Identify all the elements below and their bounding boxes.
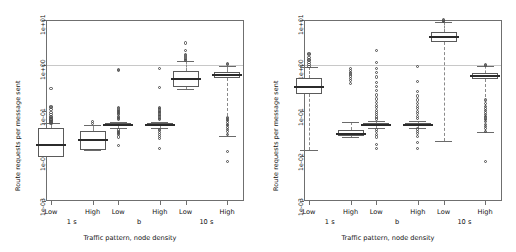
x-category-label: Low <box>166 208 206 216</box>
outlier-point <box>484 63 487 66</box>
outlier-point <box>184 41 187 44</box>
whisker-cap-upper <box>409 121 426 122</box>
whisker-cap-upper <box>342 122 359 123</box>
x-tick <box>227 201 228 205</box>
outlier-point <box>49 105 52 108</box>
outlier-point <box>375 67 378 70</box>
whisker-lower <box>309 94 310 150</box>
y-tick-label: 1e-01 <box>297 108 304 126</box>
outlier-point <box>484 98 487 101</box>
median-line <box>336 133 366 135</box>
outlier-point <box>226 116 229 119</box>
x-tick <box>186 201 187 205</box>
outlier-point <box>375 143 378 146</box>
median-line <box>403 124 433 126</box>
x-axis-title: Traffic pattern, node density <box>283 234 493 242</box>
whisker-cap-lower <box>84 150 101 151</box>
outlier-point <box>375 133 378 136</box>
outlier-point <box>375 61 378 64</box>
x-tick <box>51 201 52 205</box>
outlier-point <box>226 160 229 163</box>
outlier-point <box>375 71 378 74</box>
x-group-label: b <box>114 218 164 226</box>
outlier-point <box>184 53 187 56</box>
y-tick-label: 1e+01 <box>297 14 304 35</box>
median-line <box>429 36 459 38</box>
x-group-label: 10 s <box>439 218 489 226</box>
median-line <box>103 124 133 126</box>
plot-frame <box>304 20 502 201</box>
outlier-point <box>375 128 378 131</box>
median-line <box>470 75 500 77</box>
median-line <box>145 124 175 126</box>
outlier-point <box>117 68 120 71</box>
x-tick <box>160 201 161 205</box>
y-tick-label: 1e-02 <box>297 153 304 171</box>
outlier-point <box>375 101 378 104</box>
outlier-point <box>375 135 378 138</box>
x-axis-title: Traffic pattern, node density <box>25 234 235 242</box>
outlier-point <box>307 56 310 59</box>
outlier-point <box>484 160 487 163</box>
whisker-cap-lower <box>177 89 194 90</box>
x-category-label: High <box>465 208 505 216</box>
whisker-upper <box>309 67 310 78</box>
outlier-point <box>117 128 120 131</box>
whisker-upper <box>186 61 187 71</box>
outlier-point <box>375 109 378 112</box>
chart-panel-left: 1e-031e-021e-011e+001e+01LowHighLowHighL… <box>0 0 258 252</box>
reference-line <box>305 65 501 66</box>
x-tick <box>485 201 486 205</box>
outlier-point <box>484 102 487 105</box>
outlier-point <box>375 147 378 150</box>
y-tick-label: 1e+00 <box>39 59 46 80</box>
x-category-label: Low <box>289 208 329 216</box>
whisker-lower <box>444 42 445 141</box>
x-group-label: 1 s <box>305 218 355 226</box>
median-line <box>171 78 201 80</box>
outlier-point <box>307 52 310 55</box>
whisker-upper <box>351 122 352 130</box>
x-group-label: 10 s <box>181 218 231 226</box>
outlier-point <box>375 85 378 88</box>
median-line <box>294 86 324 88</box>
x-category-label: Low <box>356 208 396 216</box>
x-tick <box>376 201 377 205</box>
whisker-upper <box>444 22 445 32</box>
x-group-label: 1 s <box>47 218 97 226</box>
outlier-point <box>226 150 229 153</box>
reference-line <box>47 65 243 66</box>
outlier-point <box>375 104 378 107</box>
outlier-point <box>349 82 352 85</box>
y-tick-label: 1e+00 <box>297 59 304 80</box>
x-category-label: Low <box>98 208 138 216</box>
median-line <box>212 74 242 76</box>
x-tick <box>93 201 94 205</box>
whisker-cap-upper <box>219 66 236 67</box>
x-tick <box>418 201 419 205</box>
outlier-point <box>442 18 445 21</box>
outlier-point <box>375 89 378 92</box>
whisker-cap-lower <box>300 150 317 151</box>
median-line <box>361 124 391 126</box>
whisker-upper <box>485 66 486 73</box>
box-iqr <box>38 128 64 157</box>
x-category-label: High <box>207 208 247 216</box>
outlier-point <box>375 81 378 84</box>
outlier-point <box>375 97 378 100</box>
whisker-cap-lower <box>219 136 236 137</box>
outlier-point <box>375 75 378 78</box>
x-group-label: b <box>372 218 422 226</box>
median-line <box>78 139 108 141</box>
figure-root: 1e-031e-021e-011e+001e+01LowHighLowHighL… <box>0 0 516 252</box>
x-tick <box>309 201 310 205</box>
x-tick <box>351 201 352 205</box>
plot-frame <box>46 20 244 201</box>
whisker-cap-lower <box>342 137 359 138</box>
outlier-point <box>226 133 229 136</box>
outlier-point <box>375 93 378 96</box>
median-line <box>36 144 66 146</box>
outlier-point <box>484 105 487 108</box>
chart-panel-right: 1e-031e-021e-011e+001e+01LowHighLowHighL… <box>258 0 516 252</box>
whisker-cap-upper <box>368 121 385 122</box>
